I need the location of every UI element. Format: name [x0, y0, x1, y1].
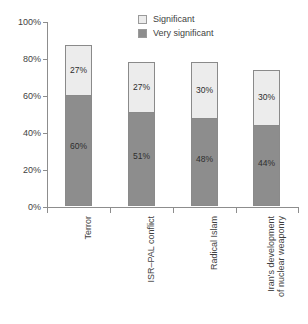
- bar-segment-very-significant[interactable]: 51%: [128, 112, 155, 206]
- y-tick-60: [43, 96, 47, 97]
- bar-label-significant: 30%: [196, 86, 213, 95]
- x-axis-label-iran-nuclear-weaponry-line1: Iran's development: [266, 216, 276, 292]
- bar-segment-significant[interactable]: 30%: [253, 70, 280, 125]
- bar-label-significant: 30%: [258, 93, 275, 102]
- bar-segment-significant[interactable]: 27%: [65, 45, 92, 95]
- bar-label-very-significant: 44%: [258, 159, 275, 168]
- bar-radical-islam[interactable]: 30% 48%: [191, 62, 218, 206]
- x-tick-3: [236, 208, 237, 213]
- x-axis-label-terror-line1: Terror: [83, 216, 93, 240]
- y-tick-40: [43, 133, 47, 134]
- x-axis-label-radical-islam: Radical Islam: [209, 216, 219, 324]
- y-axis-label-80: 80%: [0, 55, 41, 64]
- x-tick-0: [47, 208, 48, 213]
- bar-label-significant: 27%: [70, 66, 87, 75]
- y-tick-80: [43, 59, 47, 60]
- bar-label-very-significant: 48%: [196, 155, 213, 164]
- bar-label-significant: 27%: [133, 83, 150, 92]
- x-axis-label-radical-islam-line1: Radical Islam: [209, 216, 219, 270]
- x-tick-1: [110, 208, 111, 213]
- legend-label-very-significant: Very significant: [153, 29, 214, 38]
- legend-entry-significant: Significant: [138, 14, 214, 25]
- y-tick-20: [43, 170, 47, 171]
- y-axis-label-100: 100%: [0, 18, 41, 27]
- x-axis-label-terror: Terror: [83, 216, 93, 324]
- x-axis-label-iran-nuclear-weaponry-line2: of nuclear weaponry: [276, 216, 286, 324]
- bar-iran-nuclear-weaponry[interactable]: 30% 44%: [253, 70, 280, 206]
- bar-label-very-significant: 51%: [133, 152, 150, 161]
- legend-label-significant: Significant: [153, 15, 195, 24]
- legend-swatch-very-significant: [138, 29, 147, 38]
- bar-terror[interactable]: 27% 60%: [65, 45, 92, 206]
- x-tick-2: [173, 208, 174, 213]
- chart-legend: Significant Very significant: [138, 14, 214, 39]
- x-tick-4: [298, 208, 299, 213]
- stacked-bar-chart: Significant Very significant 100% 80% 60…: [0, 0, 308, 324]
- y-axis-label-0: 0%: [0, 203, 41, 212]
- y-axis-label-40: 40%: [0, 129, 41, 138]
- bar-segment-very-significant[interactable]: 44%: [253, 125, 280, 206]
- bar-segment-significant[interactable]: 27%: [128, 62, 155, 112]
- bar-isr-pal-conflict[interactable]: 27% 51%: [128, 62, 155, 206]
- y-tick-100: [43, 22, 47, 23]
- bar-segment-significant[interactable]: 30%: [191, 62, 218, 117]
- x-axis-label-isr-pal-conflict: ISR–PAL conflict: [146, 216, 156, 324]
- y-axis-label-20: 20%: [0, 166, 41, 175]
- bar-segment-very-significant[interactable]: 48%: [191, 118, 218, 206]
- bar-segment-very-significant[interactable]: 60%: [65, 95, 92, 206]
- legend-entry-very-significant: Very significant: [138, 28, 214, 39]
- legend-swatch-significant: [138, 15, 147, 24]
- x-axis-label-isr-pal-conflict-line1: ISR–PAL conflict: [146, 216, 156, 283]
- bar-label-very-significant: 60%: [70, 142, 87, 151]
- y-axis-line: [47, 22, 48, 208]
- x-axis-label-iran-nuclear-weaponry: Iran's development of nuclear weaponry: [266, 216, 286, 324]
- y-axis-label-60: 60%: [0, 92, 41, 101]
